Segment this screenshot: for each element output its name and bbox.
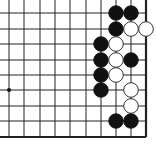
black-stone xyxy=(109,114,124,129)
white-stone xyxy=(139,22,154,37)
star-point-icon xyxy=(7,88,11,92)
white-stone xyxy=(124,83,139,98)
white-stone xyxy=(109,68,124,83)
black-stone xyxy=(94,83,109,98)
black-stone xyxy=(124,114,139,129)
go-board xyxy=(0,0,156,145)
black-stone xyxy=(94,53,109,68)
black-stone xyxy=(94,68,109,83)
black-stone xyxy=(109,6,124,21)
board-grid xyxy=(0,0,146,137)
black-stone xyxy=(124,53,139,68)
white-stone xyxy=(109,37,124,52)
white-stone xyxy=(124,22,139,37)
black-stone xyxy=(109,22,124,37)
white-stone xyxy=(109,53,124,68)
star-points xyxy=(7,88,11,92)
black-stone xyxy=(94,37,109,52)
white-stone xyxy=(124,99,139,114)
black-stone xyxy=(124,6,139,21)
stones xyxy=(94,6,154,129)
